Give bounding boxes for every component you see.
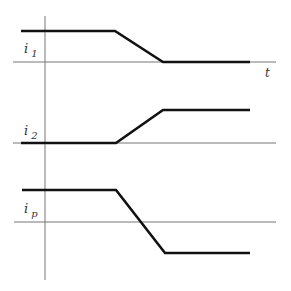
i1-waveform: [21, 31, 250, 62]
i1-label: i1: [24, 41, 38, 59]
time-axis-label: t: [265, 66, 270, 80]
timing-diagram: i1 t i2 ip: [0, 0, 291, 291]
ip-label: ip: [24, 201, 38, 219]
i2-label: i2: [24, 123, 38, 141]
i2-waveform: [21, 110, 250, 143]
